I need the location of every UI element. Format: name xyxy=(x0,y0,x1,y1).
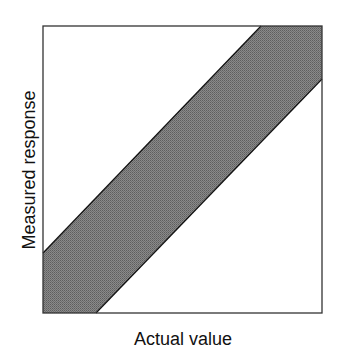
x-axis-label: Actual value xyxy=(134,329,232,349)
y-axis-label: Measured response xyxy=(19,90,39,249)
chart: Actual value Measured response xyxy=(0,0,341,352)
